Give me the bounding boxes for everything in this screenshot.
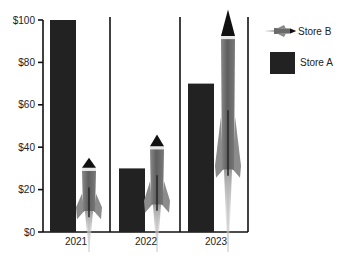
x-tick-label-2021: 2021 [65, 236, 88, 247]
rocket-icon [264, 25, 296, 37]
legend-label-store-b: Store B [298, 26, 332, 37]
y-tick-label: $60 [18, 99, 35, 110]
bar-store-a-2021 [50, 20, 76, 232]
rocket-store-b-2023 [215, 9, 241, 252]
legend-label-store-a: Store A [300, 57, 333, 68]
y-tick-label: $100 [13, 15, 36, 26]
y-tick-label: $40 [18, 142, 35, 153]
y-axis-ticks: $0$20$40$60$80$100 [13, 15, 43, 238]
legend-item-store-a: Store A [270, 52, 333, 74]
store-b-rockets [76, 9, 241, 252]
legend: Store B Store A [264, 25, 333, 74]
y-tick-label: $0 [24, 227, 36, 238]
bar-store-a-2022 [119, 168, 145, 232]
legend-item-store-b: Store B [264, 25, 332, 37]
bar-store-a-2023 [188, 84, 214, 232]
legend-swatch-store-a [270, 52, 295, 74]
store-a-bars [50, 20, 214, 232]
y-tick-label: $20 [18, 184, 35, 195]
x-tick-label-2022: 2022 [135, 236, 158, 247]
x-tick-label-2023: 2023 [205, 236, 228, 247]
rocket-bar-chart: $0$20$40$60$80$100 202120222023 Store B … [0, 0, 350, 269]
rocket-store-b-2022 [144, 134, 170, 252]
y-tick-label: $80 [18, 57, 35, 68]
